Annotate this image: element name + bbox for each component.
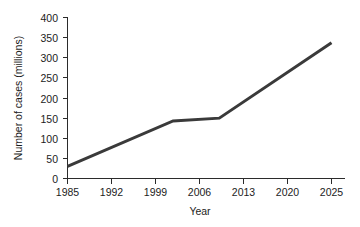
series-line-number-of-cases: [68, 43, 332, 167]
y-tick-label-100: 100: [40, 133, 58, 145]
x-tick-label-2006: 2006: [188, 186, 212, 198]
x-tick-label-1992: 1992: [100, 186, 124, 198]
x-axis-ticks: [68, 179, 332, 185]
y-tick-label-400: 400: [40, 12, 58, 24]
y-tick-label-0: 0: [52, 173, 58, 185]
y-tick-label-250: 250: [40, 72, 58, 84]
x-tick-label-2025: 2025: [320, 186, 344, 198]
x-tick-label-2013: 2013: [232, 186, 256, 198]
x-tick-label-2020: 2020: [276, 186, 300, 198]
x-axis-title: Year: [189, 205, 211, 217]
y-axis-tick-labels: 400 350 300 250 200 150 100 50 0: [40, 12, 58, 185]
y-axis-ticks: [63, 18, 68, 179]
line-chart-figure: 400 350 300 250 200 150 100 50 0 1985 19…: [0, 0, 360, 227]
chart-canvas: 400 350 300 250 200 150 100 50 0 1985 19…: [0, 0, 360, 227]
y-tick-label-150: 150: [40, 113, 58, 125]
y-tick-label-50: 50: [46, 153, 58, 165]
y-axis-title: Number of cases (millions): [12, 36, 24, 160]
x-tick-label-1985: 1985: [56, 186, 80, 198]
y-tick-label-350: 350: [40, 32, 58, 44]
y-tick-label-200: 200: [40, 93, 58, 105]
y-tick-label-300: 300: [40, 52, 58, 64]
x-tick-label-1999: 1999: [144, 186, 168, 198]
x-axis-tick-labels: 1985 1992 1999 2006 2013 2020 2025: [56, 186, 344, 198]
